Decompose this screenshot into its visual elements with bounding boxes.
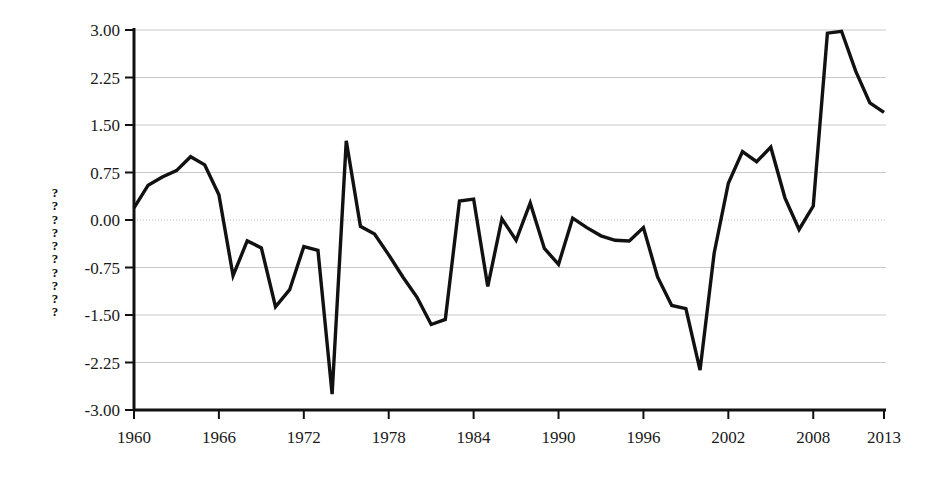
- x-tick-label: 1966: [202, 428, 236, 447]
- x-tick-label: 2013: [867, 428, 901, 447]
- x-tick-label: 1990: [542, 428, 576, 447]
- x-tick-label: 2008: [796, 428, 830, 447]
- y-tick-label: 0.75: [90, 164, 120, 183]
- line-chart: 3.002.251.500.750.00-0.75-1.50-2.25-3.00…: [0, 0, 934, 484]
- y-tick-label: 2.25: [90, 69, 120, 88]
- x-tick-label: 1960: [117, 428, 151, 447]
- y-tick-label: 1.50: [90, 116, 120, 135]
- x-tick-label: 1978: [372, 428, 406, 447]
- x-tick-label: 1972: [287, 428, 321, 447]
- x-tick-label: 1984: [457, 428, 492, 447]
- data-series-line: [134, 31, 884, 394]
- y-tick-label: -0.75: [85, 259, 120, 278]
- y-tick-label: 0.00: [90, 211, 120, 230]
- y-axis-ticks: 3.002.251.500.750.00-0.75-1.50-2.25-3.00: [85, 21, 134, 420]
- y-tick-label: -2.25: [85, 354, 120, 373]
- y-tick-label: -3.00: [85, 401, 120, 420]
- gridlines: [134, 30, 886, 363]
- x-tick-label: 2002: [711, 428, 745, 447]
- chart-container: ? ? ? ? ? ? ? ? ? ? 3.002.251.500.750.00…: [0, 0, 934, 484]
- x-tick-label: 1996: [626, 428, 660, 447]
- x-axis-ticks: 1960196619721978198419901996200220082013: [117, 410, 901, 447]
- y-tick-label: -1.50: [85, 306, 120, 325]
- y-tick-label: 3.00: [90, 21, 120, 40]
